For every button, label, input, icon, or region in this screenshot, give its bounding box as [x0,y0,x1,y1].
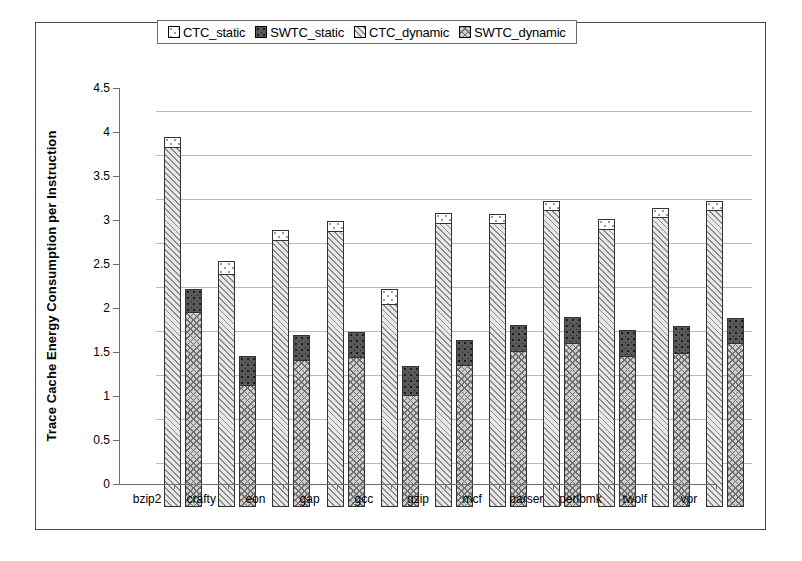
legend-label: CTC_dynamic [369,26,449,39]
bar-swtc-gcc-static-segment [403,367,418,395]
bar-swtc-perlbmk-static-segment [620,331,635,356]
y-axis-tick-mark [113,484,119,485]
x-axis-tick-mark [174,484,175,489]
y-axis-tick-label: 1.5 [70,346,110,358]
bar-ctc-gcc-dynamic-segment [382,304,397,506]
bar-swtc-gzip[interactable] [456,340,473,507]
legend-label: CTC_static [183,26,245,39]
bar-ctc-gzip-dynamic-segment [436,223,451,506]
gridline [156,111,752,112]
bar-ctc-gap[interactable] [327,221,344,507]
x-axis-tick-mark [608,484,609,489]
bar-swtc-gcc-dynamic-segment [403,395,418,506]
x-axis-tick-mark [283,484,284,489]
bar-ctc-vpr[interactable] [706,201,723,507]
bar-ctc-mcf-static-segment [490,215,505,223]
bar-ctc-gzip-static-segment [436,214,451,223]
y-axis-tick-label: 0 [70,478,110,490]
bar-swtc-bzip2-dynamic-segment [186,312,201,506]
y-axis-tick-mark [113,176,119,177]
bar-ctc-gzip[interactable] [435,213,452,507]
legend-swatch-icon [168,26,180,38]
bar-swtc-eon[interactable] [293,335,310,507]
bar-swtc-parser[interactable] [564,317,581,507]
bar-swtc-bzip2-static-segment [186,290,201,312]
bar-ctc-bzip2-static-segment [165,138,180,147]
chart-legend: CTC_staticSWTC_staticCTC_dynamicSWTC_dyn… [157,20,577,44]
bar-ctc-eon[interactable] [272,230,289,507]
bar-swtc-mcf-dynamic-segment [511,351,526,506]
gridline [156,199,752,200]
legend-label: SWTC_static [270,26,344,39]
y-axis-tick-mark [113,88,119,89]
legend-entry-swtc_static[interactable]: SWTC_static [255,26,344,39]
legend-entry-swtc_dynamic[interactable]: SWTC_dynamic [459,26,566,39]
y-axis-tick-mark [113,220,119,221]
bar-ctc-crafty-static-segment [219,262,234,274]
bar-swtc-mcf-static-segment [511,326,526,352]
x-axis-tick-mark [499,484,500,489]
x-axis-tick-mark [553,484,554,489]
bar-ctc-bzip2[interactable] [164,137,181,507]
y-axis-tick-mark [113,132,119,133]
x-axis-tick-mark [228,484,229,489]
y-axis-tick-mark [113,440,119,441]
bar-ctc-gcc[interactable] [381,289,398,507]
x-axis-tick-mark [445,484,446,489]
bar-swtc-mcf[interactable] [510,325,527,507]
bar-ctc-eon-static-segment [273,231,288,241]
bar-ctc-perlbmk[interactable] [598,219,615,507]
x-axis-tick-labels: bzip2craftyeongapgccgzipmcfparserperlbmk… [120,492,716,512]
bar-ctc-gap-dynamic-segment [328,231,343,506]
bar-swtc-parser-static-segment [565,318,580,343]
bar-swtc-vpr-static-segment [728,319,743,344]
bar-swtc-bzip2[interactable] [185,289,202,507]
y-axis-tick-mark [113,264,119,265]
y-axis-tick-label: 4.5 [70,82,110,94]
bar-ctc-vpr-dynamic-segment [707,210,722,506]
y-axis-tick-label: 0.5 [70,434,110,446]
x-axis-tick-mark [716,484,717,489]
bar-swtc-twolf-static-segment [674,327,689,353]
legend-swatch-icon [459,26,471,38]
y-axis-tick-label: 2 [70,302,110,314]
bar-ctc-perlbmk-dynamic-segment [599,229,614,506]
x-axis-tick-mark [337,484,338,489]
bar-ctc-twolf[interactable] [652,208,669,507]
y-axis-tick-mark [113,352,119,353]
bar-ctc-gap-static-segment [328,222,343,231]
bar-ctc-parser-static-segment [544,202,559,210]
legend-entry-ctc_static[interactable]: CTC_static [168,26,245,39]
bar-swtc-gap[interactable] [348,332,365,507]
gridline [156,155,752,156]
bar-ctc-parser-dynamic-segment [544,210,559,506]
bar-swtc-gcc[interactable] [402,366,419,507]
bar-swtc-crafty-static-segment [240,357,255,385]
x-axis-tick-mark [662,484,663,489]
y-axis-tick-label: 3 [70,214,110,226]
bar-ctc-mcf[interactable] [489,214,506,507]
legend-entry-ctc_dynamic[interactable]: CTC_dynamic [354,26,449,39]
y-axis-tick-label: 2.5 [70,258,110,270]
bar-ctc-twolf-dynamic-segment [653,217,668,506]
bar-ctc-bzip2-dynamic-segment [165,147,180,506]
legend-swatch-icon [255,26,267,38]
bar-swtc-twolf[interactable] [673,326,690,507]
bar-swtc-vpr[interactable] [727,318,744,507]
bar-swtc-crafty-dynamic-segment [240,385,255,506]
bar-swtc-eon-static-segment [294,336,309,360]
y-axis-tick-labels: 4.543.532.521.510.50 [66,0,110,561]
bar-ctc-crafty[interactable] [218,261,235,507]
bar-swtc-gap-static-segment [349,333,364,357]
bar-ctc-twolf-static-segment [653,209,668,217]
legend-label: SWTC_dynamic [474,26,566,39]
x-axis-tick-label: vpr [649,492,729,506]
bar-ctc-gcc-static-segment [382,290,397,304]
bar-ctc-eon-dynamic-segment [273,240,288,506]
bar-swtc-perlbmk[interactable] [619,330,636,507]
y-axis-tick-label: 4 [70,126,110,138]
x-axis-tick-mark [391,484,392,489]
plot-area [156,111,752,507]
bar-ctc-vpr-static-segment [707,202,722,210]
bar-ctc-parser[interactable] [543,201,560,507]
